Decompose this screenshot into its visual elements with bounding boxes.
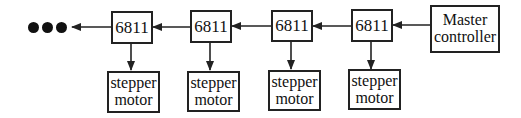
ellipsis-dot <box>28 22 39 33</box>
motor-label-line2: motor <box>194 92 232 109</box>
motor-label-line1: stepper <box>110 75 156 92</box>
stepper-motor-1: stepper motor <box>107 71 160 113</box>
controller-6811-1: 6811 <box>111 11 153 44</box>
motor-label-line2: motor <box>114 92 152 109</box>
ellipsis-dot <box>56 22 67 33</box>
motor-label-line1: stepper <box>271 74 317 91</box>
stepper-motor-4: stepper motor <box>348 69 401 110</box>
motor-label-line1: stepper <box>190 75 236 92</box>
motor-label-line1: stepper <box>351 73 397 90</box>
controller-6811-2: 6811 <box>190 10 232 43</box>
stepper-motor-2: stepper motor <box>187 71 240 112</box>
master-label-line2: controller <box>434 29 496 46</box>
motor-label-line2: motor <box>275 91 313 108</box>
controller-label: 6811 <box>355 17 388 35</box>
controller-6811-3: 6811 <box>271 10 313 42</box>
controller-label: 6811 <box>194 18 227 36</box>
stepper-motor-3: stepper motor <box>268 70 321 111</box>
motor-label-line2: motor <box>355 90 393 107</box>
ellipsis-dot <box>42 22 53 33</box>
master-controller: Master controller <box>430 5 500 53</box>
master-label-line1: Master <box>443 12 487 29</box>
controller-6811-4: 6811 <box>351 9 393 42</box>
controller-label: 6811 <box>115 19 148 37</box>
controller-label: 6811 <box>275 17 308 35</box>
